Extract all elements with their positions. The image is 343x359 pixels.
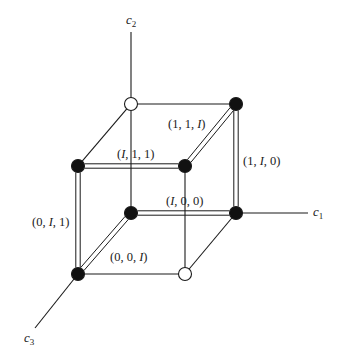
cube-diagram-canvas: c1c2c3 (1, 1, I)(I, 1, 1)(1, I, 0)(I, 0,… xyxy=(0,0,343,359)
axes: c1c2c3 xyxy=(24,12,323,347)
axis-c1-label: c1 xyxy=(313,204,323,221)
filled-node-bottom-back-right xyxy=(230,207,243,220)
filled-node-bottom-front-left xyxy=(72,268,85,281)
cube-diagram: c1c2c3 (1, 1, I)(I, 1, 1)(1, I, 0)(I, 0,… xyxy=(0,0,343,359)
filled-node-top-front-left xyxy=(72,160,85,173)
label-I-1-1: (I, 1, 1) xyxy=(117,147,155,161)
edge-double xyxy=(187,108,230,160)
nodes xyxy=(72,98,243,281)
filled-node-top-front-right xyxy=(179,160,192,173)
label-0-I-1: (0, I, 1) xyxy=(32,215,70,229)
filled-node-top-back-right xyxy=(230,98,243,111)
label-1-1-I: (1, 1, I) xyxy=(168,117,206,131)
label-1-I-0: (1, I, 0) xyxy=(243,154,281,168)
axis-c2-label: c2 xyxy=(126,12,136,29)
open-node-top-back-left xyxy=(125,98,138,111)
open-node-bottom-front-right xyxy=(179,268,192,281)
axis-c3-line xyxy=(35,274,78,328)
edge xyxy=(189,218,232,269)
filled-node-bottom-back-left xyxy=(125,207,138,220)
label-I-0-0: (I, 0, 0) xyxy=(166,194,204,208)
edge-labels: (1, 1, I)(I, 1, 1)(1, I, 0)(I, 0, 0)(0, … xyxy=(32,117,281,264)
edges xyxy=(76,104,238,274)
label-0-0-I: (0, 0, I) xyxy=(110,250,148,264)
axis-c3-label: c3 xyxy=(24,330,35,347)
